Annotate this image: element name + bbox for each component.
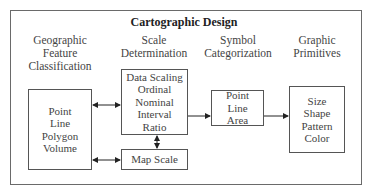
heading-scale-determination: Scale Determination xyxy=(112,34,196,60)
box-line: Shape xyxy=(301,107,332,120)
heading-symbol-categorization: Symbol Categorization xyxy=(200,34,276,60)
box-line: Ordinal xyxy=(126,83,183,96)
box-data-scaling: Data Scaling Ordinal Nominal Interval Ra… xyxy=(121,69,188,135)
heading-graphic-primitives: Graphic Primitives xyxy=(284,34,350,60)
heading-line: Scale xyxy=(112,34,196,47)
box-line: Data Scaling xyxy=(126,71,183,84)
heading-geographic-feature-classification: Geographic Feature Classification xyxy=(20,34,100,73)
heading-line: Symbol xyxy=(200,34,276,47)
box-map-scale: Map Scale xyxy=(121,149,188,170)
box-line: Size xyxy=(301,95,332,108)
box-line: Color xyxy=(301,132,332,145)
box-line: Pattern xyxy=(301,120,332,133)
heading-line: Primitives xyxy=(284,47,350,60)
heading-line: Feature xyxy=(20,47,100,60)
box-line: Area xyxy=(226,114,249,127)
box-line: Ratio xyxy=(126,121,183,134)
heading-line: Geographic xyxy=(20,34,100,47)
heading-line: Classification xyxy=(20,60,100,73)
box-line: Line xyxy=(42,117,79,130)
box-line: Volume xyxy=(42,142,79,155)
diagram-title: Cartographic Design xyxy=(0,15,368,30)
heading-line: Graphic xyxy=(284,34,350,47)
box-graphic-primitives: Size Shape Pattern Color xyxy=(289,86,345,153)
box-symbol-types: Point Line Area xyxy=(211,90,264,126)
box-line: Interval xyxy=(126,108,183,121)
box-line: Point xyxy=(226,89,249,102)
box-line: Map Scale xyxy=(131,153,178,166)
box-line: Polygon xyxy=(42,130,79,143)
heading-line: Determination xyxy=(112,47,196,60)
heading-line: Categorization xyxy=(200,47,276,60)
box-line: Nominal xyxy=(126,96,183,109)
box-line: Line xyxy=(226,102,249,115)
box-line: Point xyxy=(42,105,79,118)
box-feature-types: Point Line Polygon Volume xyxy=(28,89,92,170)
